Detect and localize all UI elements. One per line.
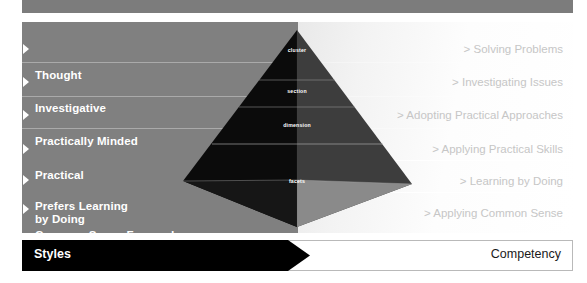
styles-title: Styles <box>34 247 71 261</box>
competency-item-applying-practical-skills[interactable]: > Applying Practical Skills <box>432 143 563 156</box>
arrow-bullet-icon <box>23 77 29 87</box>
arrow-bullet-icon <box>23 110 29 120</box>
competency-item-solving-problems[interactable]: > Solving Problems <box>464 43 563 56</box>
competency-title: Competency <box>491 247 561 261</box>
style-item-label: Common Sense Focused <box>35 229 298 233</box>
diagram-screen: cluster section dimension facets Thought… <box>0 0 587 283</box>
competency-item-learning-by-doing[interactable]: > Learning by Doing <box>460 175 563 188</box>
arrow-bullet-icon <box>23 204 29 214</box>
diagram-panel: cluster section dimension facets Thought… <box>22 22 573 233</box>
arrow-bullet-icon <box>23 44 29 54</box>
competency-item-applying-common-sense[interactable]: > Applying Common Sense <box>424 207 563 220</box>
competency-item-investigating-issues[interactable]: > Investigating Issues <box>452 76 563 89</box>
arrow-bullet-icon <box>23 144 29 154</box>
competency-column: > Solving Problems > Investigating Issue… <box>298 22 573 233</box>
arrow-bullet-icon <box>23 175 29 185</box>
styles-column: Thought Investigative Practically Minded… <box>22 22 298 233</box>
header-bar <box>22 0 573 13</box>
bottom-bar: Styles Competency <box>22 240 573 271</box>
style-item-common-sense-focused[interactable]: Common Sense Focused <box>22 203 298 233</box>
competency-item-adopting-practical-approaches[interactable]: > Adopting Practical Approaches <box>397 109 563 122</box>
